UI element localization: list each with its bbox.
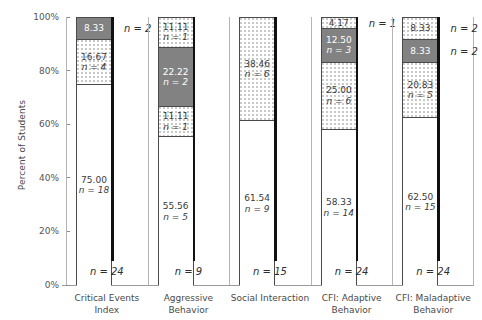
segment-percent-label: 11.11 <box>163 22 189 33</box>
stacked-bar[interactable]: 4.1712.50n = 325.00n = 658.33n = 14 <box>321 17 357 285</box>
bar-segment[interactable]: 8.33 <box>403 40 437 62</box>
plot-area: 0%20%40%60%80%100%8.3316.67n = 475.00n =… <box>66 17 474 285</box>
bar-segment[interactable]: 25.00n = 6 <box>322 63 356 130</box>
stacked-bar[interactable]: 8.338.3320.83n = 562.50n = 15 <box>402 17 438 285</box>
group-total-n-label: n = 15 <box>229 266 311 277</box>
segment-n-label: n = 6 <box>245 69 270 80</box>
bar-group: 8.3316.67n = 475.00n = 18n = 2n = 24 <box>66 17 148 285</box>
bar-segment[interactable]: 4.17 <box>322 18 356 29</box>
bar-edge-rule <box>356 17 359 261</box>
stacked-bar[interactable]: 38.46n = 661.54n = 9 <box>239 17 275 285</box>
group-total-n-label: n = 24 <box>311 266 393 277</box>
x-label-line1: Critical Events <box>74 293 139 303</box>
segment-n-label: n = 5 <box>408 90 433 101</box>
segment-percent-label: 25.00 <box>326 85 352 96</box>
segment-n-label: n = 14 <box>324 208 354 219</box>
segment-n-label: n = 9 <box>245 204 270 215</box>
x-label-line1: CFI: Adaptive <box>322 293 382 303</box>
y-axis-tick: 0% <box>45 280 66 290</box>
stacked-bar-chart: Percent of Students 0%20%40%60%80%100%8.… <box>0 0 482 320</box>
y-axis-tick: 20% <box>39 226 66 236</box>
bar-segment[interactable]: 16.67n = 4 <box>77 40 111 85</box>
y-axis-tick: 40% <box>39 173 66 183</box>
segment-n-label: n = 15 <box>405 202 435 213</box>
bar-segment[interactable]: 58.33n = 14 <box>322 130 356 286</box>
segment-percent-label: 8.33 <box>84 23 104 34</box>
segment-percent-label: 58.33 <box>326 197 352 208</box>
stacked-bar[interactable]: 8.3316.67n = 475.00n = 18 <box>76 17 112 285</box>
segment-percent-label: 11.11 <box>163 111 189 122</box>
segment-percent-label: 55.56 <box>163 201 189 212</box>
x-label-line1: CFI: Maladaptive <box>396 293 471 303</box>
bar-edge-rule <box>193 17 196 261</box>
segment-percent-label: 20.83 <box>408 80 434 91</box>
segment-percent-label: 12.50 <box>326 35 352 46</box>
bar-segment[interactable]: 11.11n = 1 <box>159 107 193 137</box>
group-separator <box>66 17 67 285</box>
group-separator <box>148 17 149 285</box>
group-separator <box>473 17 474 285</box>
group-separator <box>311 17 312 285</box>
segment-n-label: n = 1 <box>163 122 188 133</box>
x-label-line1: Aggressive <box>164 293 213 303</box>
bar-group: 4.1712.50n = 325.00n = 658.33n = 14n = 1… <box>311 17 393 285</box>
segment-percent-label: 62.50 <box>408 192 434 203</box>
segment-n-label: n = 2 <box>163 77 188 88</box>
bar-group: 8.338.3320.83n = 562.50n = 15n = 2n = 2n… <box>392 17 474 285</box>
segment-n-label: n = 5 <box>163 212 188 223</box>
bar-edge-rule <box>437 17 440 261</box>
bar-group: 38.46n = 661.54n = 9n = 15 <box>229 17 311 285</box>
group-separator <box>229 17 230 285</box>
segment-n-label: n = 4 <box>82 62 107 73</box>
segment-percent-label: 8.33 <box>410 46 430 57</box>
segment-percent-label: 38.46 <box>244 59 270 70</box>
y-axis-title: Percent of Students <box>17 55 27 235</box>
segment-n-label: n = 18 <box>79 185 109 196</box>
segment-percent-label: 61.54 <box>244 193 270 204</box>
y-axis-tick: 100% <box>33 12 66 22</box>
x-label-line2: Behavior <box>384 304 482 316</box>
segment-percent-label: 16.67 <box>81 52 107 63</box>
group-separator <box>392 17 393 285</box>
bar-segment[interactable]: 8.33 <box>403 18 437 40</box>
x-label-line2: Behavior <box>140 304 238 316</box>
bar-segment[interactable]: 62.50n = 15 <box>403 118 437 286</box>
group-total-n-label: n = 24 <box>392 266 474 277</box>
bar-segment[interactable]: 22.22n = 2 <box>159 48 193 108</box>
segment-percent-label: 8.33 <box>410 23 430 34</box>
segment-n-label: n = 3 <box>326 45 351 56</box>
bar-edge-rule <box>274 17 277 261</box>
segment-percent-label: 75.00 <box>81 175 107 186</box>
x-axis-category-label: CFI: MaladaptiveBehavior <box>384 292 482 316</box>
bar-segment[interactable]: 61.54n = 9 <box>240 121 274 286</box>
bar-segment[interactable]: 20.83n = 5 <box>403 63 437 119</box>
stacked-bar[interactable]: 11.11n = 122.22n = 211.11n = 155.56n = 5 <box>158 17 194 285</box>
segment-percent-label: 4.17 <box>329 18 349 28</box>
group-total-n-label: n = 9 <box>148 266 230 277</box>
y-axis-tick: 60% <box>39 119 66 129</box>
segment-percent-label: 22.22 <box>163 67 189 78</box>
bar-segment[interactable]: 38.46n = 6 <box>240 18 274 121</box>
bar-segment[interactable]: 12.50n = 3 <box>322 29 356 63</box>
segment-external-n-label: n = 2 <box>450 45 477 56</box>
bar-segment[interactable]: 75.00n = 18 <box>77 85 111 286</box>
x-label-line1: Social Interaction <box>231 293 309 303</box>
bar-edge-rule <box>111 17 114 261</box>
bar-segment[interactable]: 8.33 <box>77 18 111 40</box>
bar-segment[interactable]: 55.56n = 5 <box>159 137 193 286</box>
y-axis-tick: 80% <box>39 66 66 76</box>
bar-segment[interactable]: 11.11n = 1 <box>159 18 193 48</box>
segment-n-label: n = 1 <box>163 32 188 43</box>
segment-n-label: n = 6 <box>326 96 351 107</box>
group-total-n-label: n = 24 <box>66 266 148 277</box>
segment-external-n-label: n = 2 <box>450 23 477 34</box>
bar-group: 11.11n = 122.22n = 211.11n = 155.56n = 5… <box>148 17 230 285</box>
